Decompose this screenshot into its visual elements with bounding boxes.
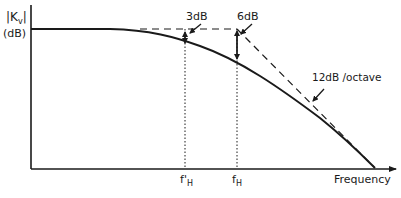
slope-leader — [313, 89, 324, 101]
slope-label: 12dB /octave — [312, 71, 382, 83]
f-prime-h-label: f'H — [180, 173, 193, 188]
y-axis-units: (dB) — [3, 27, 26, 40]
six-db-leader — [241, 24, 252, 34]
y-axis-label: |Kv| — [6, 10, 27, 26]
response-curve — [31, 29, 375, 168]
six-db-label: 6dB — [237, 10, 259, 23]
three-db-label: 3dB — [186, 10, 208, 23]
f-h-label: fH — [232, 173, 242, 188]
x-axis-label: Frequency — [334, 173, 391, 186]
frequency-response-diagram: |Kv| (dB) 3dB 6dB 12dB /octave f'H fH Fr… — [0, 0, 401, 198]
